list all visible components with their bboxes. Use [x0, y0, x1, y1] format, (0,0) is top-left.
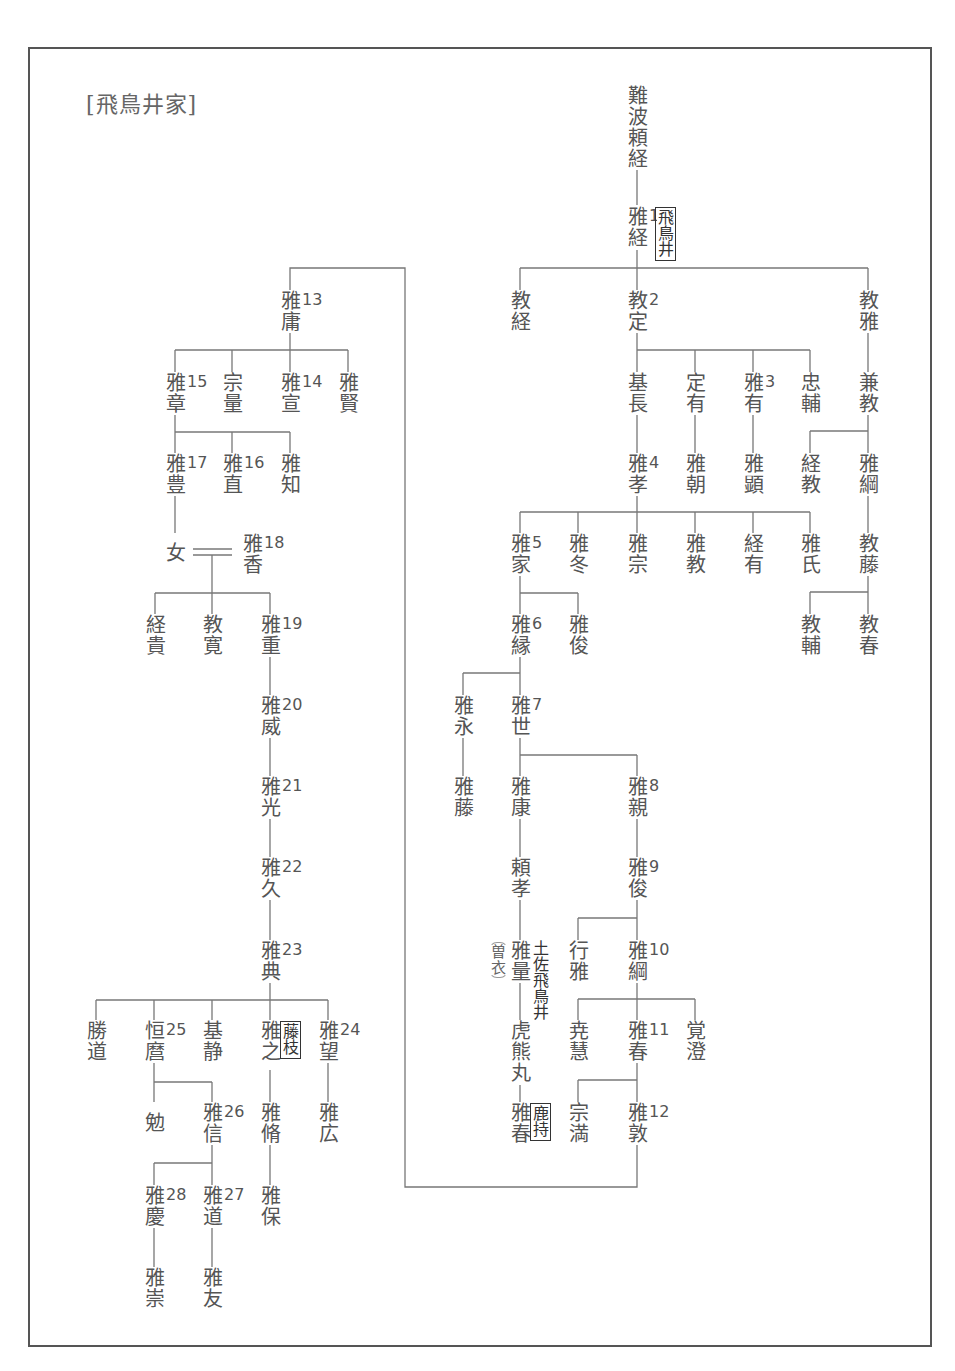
person-name: 雅信	[202, 1103, 223, 1145]
head-number: 11	[649, 1021, 669, 1039]
person-tsunemaro: 恒麿25	[144, 1021, 165, 1063]
person-masanori: 雅教	[685, 534, 706, 576]
person-norihiro: 教寛	[202, 615, 223, 657]
person-name: 尭慧	[568, 1021, 589, 1063]
person-masaharu-kashimochi: 雅春	[510, 1103, 531, 1145]
person-name: 雅俊	[627, 858, 648, 900]
person-masatoshi: 雅俊9	[627, 858, 648, 900]
head-number: 5	[532, 534, 542, 552]
person-name: 雅保	[260, 1186, 281, 1228]
person-name: 雅永	[453, 696, 474, 738]
person-name: 雅世	[510, 696, 531, 738]
person-naniwa-yoritsune: 難波頼経	[627, 86, 648, 170]
person-name: 虎熊丸	[510, 1021, 531, 1084]
person-name: 雅経	[627, 207, 648, 249]
person-name: 雅崇	[144, 1268, 165, 1310]
head-number: 24	[340, 1021, 360, 1039]
person-name: 雅久	[260, 858, 281, 900]
person-name: 雅康	[510, 777, 531, 819]
head-number: 27	[224, 1186, 244, 1204]
person-name: 雅春	[510, 1103, 531, 1145]
person-masatsuna: 雅綱10	[627, 941, 648, 983]
person-masanori-23: 雅典23	[260, 941, 281, 983]
person-name: 雅知	[280, 454, 301, 496]
head-number: 21	[282, 777, 302, 795]
person-masatomo: 雅朝	[685, 454, 706, 496]
person-masatoyo: 雅豊17	[165, 454, 186, 496]
person-name: 勉	[144, 1113, 165, 1134]
person-name: 雅朝	[685, 454, 706, 496]
person-masayo: 雅世7	[510, 696, 531, 738]
person-masayoshi: 雅慶28	[144, 1186, 165, 1228]
branch-note-kashimochi: 鹿持	[532, 1103, 549, 1141]
person-tsuneari: 経有	[743, 534, 764, 576]
person-norisada: 教定2	[627, 291, 648, 333]
person-name: 経貴	[145, 615, 166, 657]
person-sadaari: 定有	[685, 373, 706, 415]
head-number: 18	[264, 534, 284, 552]
head-number: 22	[282, 858, 302, 876]
head-number: 14	[302, 373, 322, 391]
head-number: 20	[282, 696, 302, 714]
person-name: 教輔	[800, 615, 821, 657]
head-number: 19	[282, 615, 302, 633]
person-tsunenori: 経教	[800, 454, 821, 496]
person-name: 雅威	[260, 696, 281, 738]
person-name: 雅家	[510, 534, 531, 576]
person-gyoue: 尭慧	[568, 1021, 589, 1063]
person-masayasu-ho: 雅保	[260, 1186, 281, 1228]
person-name: 雅光	[260, 777, 281, 819]
person-masatsune: 雅経1	[627, 207, 648, 249]
person-name: 覚澄	[685, 1021, 706, 1063]
head-number: 17	[187, 454, 207, 472]
person-name: 経教	[800, 454, 821, 496]
person-name: 基静	[202, 1021, 223, 1063]
person-name: 教春	[858, 615, 879, 657]
person-onna: 女	[165, 543, 186, 564]
person-name: 雅冬	[568, 534, 589, 576]
person-name: 雅友	[202, 1268, 223, 1310]
person-name: 勝道	[86, 1021, 107, 1063]
person-name: 雅親	[627, 777, 648, 819]
person-name: 教寛	[202, 615, 223, 657]
person-kakuchou: 覚澄	[685, 1021, 706, 1063]
person-masayori: 雅縁6	[510, 615, 531, 657]
person-name: 教藤	[858, 534, 879, 576]
person-name: 雅宣	[280, 373, 301, 415]
person-masaka: 雅香18	[242, 534, 263, 576]
genealogy-connector-lines	[0, 0, 955, 1371]
person-name: 雅顕	[743, 454, 764, 496]
person-masahisa: 雅久22	[260, 858, 281, 900]
person-masatomo-yu: 雅友	[202, 1268, 223, 1310]
person-name: 雅藤	[453, 777, 474, 819]
head-number: 7	[532, 696, 542, 714]
person-masakazu: 雅量	[510, 941, 531, 983]
person-norisuke: 教輔	[800, 615, 821, 657]
person-name: 難波頼経	[627, 86, 648, 170]
person-name: 雅綱	[858, 454, 879, 496]
person-masafuji: 雅藤	[453, 777, 474, 819]
person-name: 雅典	[260, 941, 281, 983]
person-name: 雅望	[318, 1021, 339, 1063]
person-masanobu-26: 雅信26	[202, 1103, 223, 1145]
person-name: 忠輔	[800, 373, 821, 415]
person-name: 雅量	[510, 941, 531, 983]
person-masatake: 雅威20	[260, 696, 281, 738]
person-masamochi: 雅望24	[318, 1021, 339, 1063]
head-number: 6	[532, 615, 542, 633]
person-ben: 勉	[144, 1113, 165, 1134]
head-number: 2	[649, 291, 659, 309]
person-masanobu-14: 雅宣14	[280, 373, 301, 415]
person-name: 女	[165, 543, 186, 564]
person-norifuji: 教藤	[858, 534, 879, 576]
person-masataka-su: 雅崇	[144, 1268, 165, 1310]
person-name: 雅重	[260, 615, 281, 657]
person-name: 雅俊	[568, 615, 589, 657]
person-masatsuna-kou: 雅綱	[858, 454, 879, 496]
head-number: 10	[649, 941, 669, 959]
person-noritsune: 教経	[510, 291, 531, 333]
person-name: 雅綱	[627, 941, 648, 983]
head-number: 26	[224, 1103, 244, 1121]
head-number: 23	[282, 941, 302, 959]
person-masatsune-13: 雅庸13	[280, 291, 301, 333]
